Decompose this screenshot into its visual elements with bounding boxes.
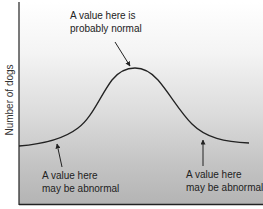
annotation-abnormal-right: A value here may be abnormal xyxy=(186,168,263,194)
y-axis-label: Number of dogs xyxy=(2,60,16,140)
bell-curve xyxy=(19,68,249,146)
arrow-to-left-tail xyxy=(57,144,62,167)
annotation-abnormal-left: A value here may be abnormal xyxy=(42,169,119,195)
normal-distribution-chart: Number of dogs A value here is probably … xyxy=(0,0,263,209)
arrow-to-peak xyxy=(115,42,130,66)
annotation-normal: A value here is probably normal xyxy=(70,9,142,35)
